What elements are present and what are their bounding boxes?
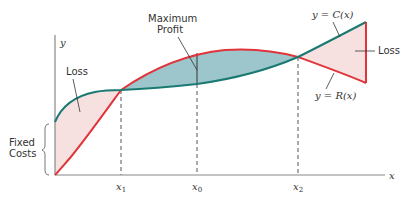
cost-label-pointer [333, 22, 340, 37]
loss-right-label: Loss [378, 45, 400, 56]
fixed-costs-label-line2: Costs [9, 148, 36, 159]
x0-label: x0 [192, 181, 202, 194]
y-axis-label: y [59, 37, 66, 48]
revenue-curve-label: y = R(x) [314, 90, 356, 101]
fixed-costs-label-line1: Fixed [9, 137, 35, 148]
loss-left-label: Loss [66, 66, 88, 77]
fixed-costs-brace [42, 124, 49, 175]
x1-label: x1 [116, 181, 126, 194]
max-profit-label-line1: Maximum [148, 13, 197, 24]
revenue-label-pointer [326, 73, 334, 89]
max-profit-label-line2: Profit [157, 24, 183, 35]
profit-region [121, 49, 298, 90]
x-axis-label: x [389, 170, 395, 181]
x2-label: x2 [293, 181, 303, 194]
cost-curve-label: y = C(x) [311, 9, 354, 20]
profit-loss-diagram: y x x1 x0 x2 Maximum Profit Loss Loss y … [0, 0, 403, 198]
